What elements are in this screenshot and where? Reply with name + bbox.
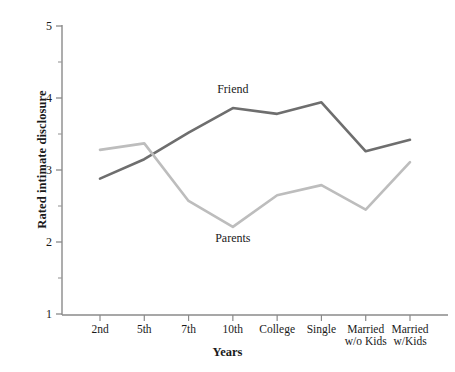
series-annotation-friend: Friend — [217, 82, 248, 97]
x-tick-label: 2nd — [91, 323, 108, 335]
data-series-group — [100, 102, 410, 227]
x-tick-label: 10th — [223, 323, 243, 335]
plot-area: 12345 2nd5th7th10thCollegeSingleMarried … — [0, 0, 455, 372]
x-axis-ticks — [100, 315, 410, 321]
x-axis-title: Years — [0, 345, 455, 360]
y-axis-ticks — [56, 26, 62, 314]
y-tick-label: 1 — [30, 308, 52, 320]
y-axis-title: Rated intimate disclosure — [35, 40, 50, 280]
x-tick-label: 5th — [137, 323, 152, 335]
x-tick-label: Single — [307, 323, 336, 335]
x-tick-label: 7th — [181, 323, 196, 335]
series-annotation-parents: Parents — [215, 231, 250, 246]
y-tick-label: 5 — [30, 20, 52, 32]
chart-canvas — [0, 0, 455, 372]
chart-figure: 12345 2nd5th7th10thCollegeSingleMarried … — [0, 0, 455, 372]
series-line-parents — [100, 143, 410, 227]
x-tick-label: College — [259, 323, 295, 335]
series-line-friend — [100, 102, 410, 178]
